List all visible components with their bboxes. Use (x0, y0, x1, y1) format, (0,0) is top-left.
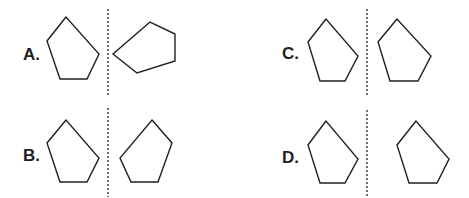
option-a-label: A. (23, 45, 40, 64)
option-c[interactable]: C. (282, 9, 431, 97)
option-b-label: B. (23, 146, 40, 165)
option-c-label: C. (282, 44, 299, 63)
pentagon-image-d (397, 121, 449, 183)
pentagon-original-d (308, 121, 358, 183)
pentagon-image-c (378, 19, 431, 81)
option-d-label: D. (282, 148, 299, 167)
pentagon-original-b (47, 120, 99, 182)
pentagon-image-a (113, 22, 175, 73)
pentagon-original-c (308, 19, 358, 81)
option-b[interactable]: B. (23, 108, 172, 197)
pentagon-original-a (47, 17, 99, 79)
reflection-diagram: A. B. C. D. (0, 0, 469, 198)
pentagon-image-b (120, 120, 172, 182)
option-a[interactable]: A. (23, 9, 175, 97)
option-d[interactable]: D. (282, 110, 449, 197)
